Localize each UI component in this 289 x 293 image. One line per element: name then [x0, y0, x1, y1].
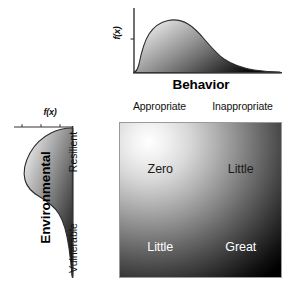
left-plot-fx-label: f(x)	[30, 107, 70, 117]
column-header-appropriate: Appropriate	[118, 100, 201, 112]
matrix-cell-grid: Zero Little Little Great	[120, 123, 281, 277]
top-plot-fx-label: f(x)	[112, 20, 122, 46]
matrix-column-headers: Appropriate Inappropriate	[118, 100, 284, 112]
matrix-cell-resilient-appropriate: Zero	[120, 123, 201, 200]
matrix-cell-vulnerable-inappropriate: Great	[201, 200, 282, 277]
behavior-axis-title: Behavior	[120, 77, 282, 92]
top-distribution-svg	[120, 6, 282, 76]
matrix-cell-vulnerable-appropriate: Little	[120, 200, 201, 277]
column-header-inappropriate: Inappropriate	[201, 100, 284, 112]
row-header-vulnerable: Vulnerable	[67, 206, 79, 290]
environmental-axis-title: Environmental	[38, 136, 53, 260]
top-behavior-distribution-chart	[120, 6, 282, 76]
risk-matrix-figure: f(x) Behavior Appropriate Inappropriate	[0, 0, 289, 293]
top-density-area	[134, 20, 280, 73]
matrix-cell-resilient-inappropriate: Little	[201, 123, 282, 200]
risk-matrix-heatmap: Zero Little Little Great	[119, 122, 282, 278]
row-header-resilient: Resilient	[67, 115, 79, 189]
